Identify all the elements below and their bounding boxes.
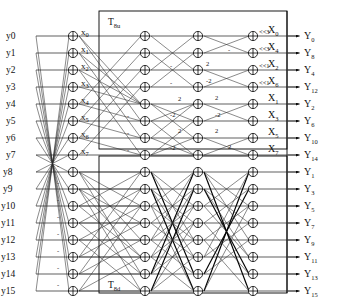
bottom-stage3-butterfly bbox=[204, 172, 249, 291]
output-arrows bbox=[288, 36, 299, 291]
bottom-block-label: T8d bbox=[108, 280, 121, 292]
adder-node-top-col4 bbox=[248, 31, 257, 159]
svg-text:x4: x4 bbox=[81, 95, 90, 106]
edge-weight: - bbox=[127, 129, 129, 136]
adder-node-top-col3 bbox=[193, 31, 202, 159]
input-label: y3 bbox=[6, 82, 16, 92]
top-stage3-butterfly bbox=[204, 36, 249, 155]
input-label: y9 bbox=[3, 184, 13, 194]
edge-weight: - bbox=[170, 79, 172, 86]
svg-text:-: - bbox=[57, 162, 59, 169]
input-label: y7 bbox=[6, 150, 16, 160]
svg-text:Y10: Y10 bbox=[304, 132, 318, 145]
svg-text:-: - bbox=[57, 247, 59, 254]
edge-weight: - bbox=[127, 112, 129, 119]
input-label: y13 bbox=[1, 252, 16, 262]
svg-text:Y11: Y11 bbox=[304, 251, 318, 264]
output-labels-bottom: Y1 Y3 Y5 Y7 Y9 Y11 Y13 Y15 bbox=[304, 166, 318, 298]
svg-text:Y9: Y9 bbox=[304, 234, 314, 247]
edge-weight: 2 bbox=[206, 60, 209, 67]
input-label: y12 bbox=[1, 235, 16, 245]
input-crossbar bbox=[36, 36, 69, 291]
svg-text:Y4: Y4 bbox=[304, 64, 315, 77]
svg-text:Y13: Y13 bbox=[304, 268, 318, 281]
svg-text:Y0: Y0 bbox=[304, 30, 314, 43]
svg-text:x2: x2 bbox=[81, 61, 89, 72]
bottom-stage2-butterfly bbox=[151, 172, 194, 291]
svg-text:x0: x0 bbox=[81, 27, 89, 38]
svg-text:X3: X3 bbox=[268, 109, 278, 122]
svg-text:Y6: Y6 bbox=[304, 115, 315, 128]
svg-text:x3: x3 bbox=[81, 78, 89, 89]
edge-weight: -2 bbox=[170, 111, 175, 118]
svg-text:Y1: Y1 bbox=[304, 166, 314, 179]
svg-text:X0: X0 bbox=[268, 24, 278, 37]
input-label: y8 bbox=[3, 167, 13, 177]
top-block-label: T8u bbox=[108, 17, 121, 29]
edge-weight: 2 bbox=[228, 143, 231, 150]
input-label: y10 bbox=[1, 201, 16, 211]
input-label: y11 bbox=[1, 218, 15, 228]
adder-node-bottom-col2 bbox=[140, 167, 149, 295]
svg-text:X4: X4 bbox=[268, 41, 279, 54]
svg-text:X1: X1 bbox=[268, 92, 278, 105]
edge-weight: 2 bbox=[178, 95, 181, 102]
adder-node-bottom-col3 bbox=[193, 167, 202, 295]
input-label: y6 bbox=[6, 133, 16, 143]
edge-weight: -2 bbox=[170, 144, 175, 151]
svg-text:-: - bbox=[57, 264, 59, 271]
edge-weight: -2 bbox=[206, 77, 211, 84]
top-stage2-butterfly bbox=[151, 36, 194, 155]
svg-text:T8u: T8u bbox=[108, 17, 121, 29]
svg-text:Y3: Y3 bbox=[304, 183, 314, 196]
svg-text:Y7: Y7 bbox=[304, 217, 315, 230]
svg-text:Y2: Y2 bbox=[304, 98, 314, 111]
minus-sign-group: - - - - - - - - bbox=[57, 162, 59, 288]
adder-node-col1 bbox=[68, 31, 77, 295]
svg-text:X5: X5 bbox=[268, 126, 278, 139]
svg-text:x5: x5 bbox=[81, 112, 89, 123]
edge-weight: 2 bbox=[215, 94, 218, 101]
adder-node-top-col2 bbox=[140, 31, 149, 159]
svg-text:-: - bbox=[57, 281, 59, 288]
svg-text:Y5: Y5 bbox=[304, 200, 314, 213]
input-label: y2 bbox=[6, 65, 16, 75]
edge-weight: - bbox=[228, 46, 230, 53]
input-label: y4 bbox=[6, 99, 16, 109]
top-block-label-sub: 8u bbox=[114, 22, 121, 29]
svg-text:-: - bbox=[57, 213, 59, 220]
bottom-block-label-sub: 8d bbox=[114, 285, 121, 292]
edge-weight: - bbox=[127, 146, 129, 153]
svg-text:Y12: Y12 bbox=[304, 81, 318, 94]
adder-node-bottom-col4 bbox=[248, 167, 257, 295]
svg-text:X7: X7 bbox=[268, 143, 279, 156]
svg-text:T8d: T8d bbox=[108, 280, 121, 292]
edge-weight: -2 bbox=[215, 111, 220, 118]
svg-text:-: - bbox=[57, 179, 59, 186]
input-label: y0 bbox=[6, 31, 16, 41]
signal-flow-graph: - - - - - - - - bbox=[0, 0, 347, 305]
intermediate-labels: x0 x1 x2 x3 x4 x5 x6 x7 bbox=[81, 27, 90, 157]
input-label: y14 bbox=[1, 269, 16, 279]
svg-text:X2: X2 bbox=[268, 58, 278, 71]
input-label: y1 bbox=[6, 48, 16, 58]
diagram-canvas: - - - - - - - - bbox=[0, 0, 347, 305]
svg-text:Y14: Y14 bbox=[304, 149, 318, 162]
edge-weight: 2 bbox=[178, 127, 181, 134]
svg-text:x6: x6 bbox=[81, 129, 90, 140]
input-label: y15 bbox=[1, 286, 16, 296]
input-label: y5 bbox=[6, 116, 16, 126]
svg-text:x7: x7 bbox=[81, 146, 90, 157]
svg-text:-: - bbox=[57, 230, 59, 237]
input-labels: y0 y1 y2 y3 y4 y5 y6 y7 y8 y9 y10 y11 y1… bbox=[1, 31, 16, 296]
stage-output-labels: X0 X4 X2 X6 X1 X3 X5 X7 bbox=[268, 24, 279, 156]
bottom-stage1-butterfly bbox=[79, 172, 141, 291]
svg-text:Y8: Y8 bbox=[304, 47, 314, 60]
edge-weight: - bbox=[170, 62, 172, 69]
edge-weight: 2 bbox=[215, 127, 218, 134]
output-labels-top: Y0 Y8 Y4 Y12 Y2 Y6 Y10 Y14 bbox=[304, 30, 318, 162]
svg-text:Y15: Y15 bbox=[304, 285, 318, 298]
svg-text:-: - bbox=[57, 196, 59, 203]
svg-text:X6: X6 bbox=[268, 75, 279, 88]
